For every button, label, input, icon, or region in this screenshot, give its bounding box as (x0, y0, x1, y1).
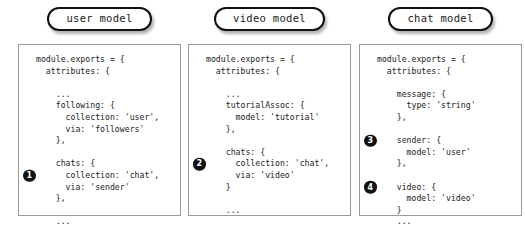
code-line: }, (189, 124, 352, 136)
code-line: via: 'followers' (19, 124, 182, 136)
code-line-text: module.exports = { (36, 54, 125, 64)
code-block: module.exports = { attributes: { message… (360, 54, 523, 228)
code-line-text: }, (377, 112, 407, 122)
code-line (360, 77, 523, 89)
code-line-text: } (377, 205, 402, 215)
code-line (189, 77, 352, 89)
code-line-text: ... (36, 89, 71, 99)
code-line (19, 147, 182, 159)
code-line-text: model: 'video' (377, 193, 476, 203)
callout-badge-3: 3 (364, 135, 377, 148)
code-line: collection: 'user', (19, 112, 182, 124)
code-line-text: ... (36, 216, 71, 226)
model-column: chat modelmodule.exports = { attributes:… (359, 0, 522, 230)
code-line: module.exports = { (189, 54, 352, 66)
model-column: video modelmodule.exports = { attributes… (188, 0, 351, 230)
model-title-pill: chat model (388, 7, 492, 31)
code-line-text: collection: 'chat', (206, 158, 329, 168)
code-line-text: ... (206, 205, 241, 215)
code-line: ... (189, 89, 352, 101)
code-line: tutorialAssoc: { (189, 100, 352, 112)
code-line (189, 193, 352, 205)
code-line-text: collection: 'user', (36, 112, 159, 122)
code-line-text: via: 'video' (206, 170, 295, 180)
code-line-text: video: { (377, 182, 436, 192)
code-line-text: via: 'followers' (36, 124, 144, 134)
model-title-pill-wrapper: chat model (359, 7, 522, 31)
code-line: attributes: { (189, 66, 352, 78)
callout-badge-1: 1 (23, 169, 36, 182)
model-code-panel: module.exports = { attributes: { ... fol… (18, 44, 181, 216)
code-line-text: module.exports = { (377, 54, 466, 64)
code-line: model: 'user' (360, 147, 523, 159)
code-line: following: { (19, 100, 182, 112)
code-line: 2 collection: 'chat', (189, 158, 352, 170)
model-code-panel: module.exports = { attributes: { ... tut… (188, 44, 351, 216)
callout-badge-4: 4 (364, 181, 377, 194)
callout-badge-2: 2 (193, 158, 206, 171)
code-line-text: } (206, 182, 231, 192)
code-line: 4 video: { (360, 182, 523, 194)
code-line: ... (360, 216, 523, 228)
model-title-pill: video model (214, 7, 325, 31)
code-line: }, (19, 135, 182, 147)
code-line-text: model: 'user' (377, 147, 471, 157)
code-line-text: following: { (36, 100, 115, 110)
code-line-text: }, (36, 135, 66, 145)
code-line-text: module.exports = { (206, 54, 295, 64)
code-line-text: }, (206, 124, 236, 134)
code-line: type: 'string' (360, 100, 523, 112)
code-line: } (189, 182, 352, 194)
code-line-text: attributes: { (36, 66, 110, 76)
code-line-text: ... (377, 216, 412, 226)
code-line-text: }, (36, 193, 66, 203)
code-line-text: tutorialAssoc: { (206, 100, 305, 110)
code-line (360, 170, 523, 182)
code-block: module.exports = { attributes: { ... tut… (189, 54, 352, 216)
code-line (189, 135, 352, 147)
code-line: via: 'sender' (19, 182, 182, 194)
model-title-pill-wrapper: user model (18, 7, 181, 31)
code-line-text: via: 'sender' (36, 182, 130, 192)
model-title-pill: user model (47, 7, 151, 31)
code-line-text: attributes: { (206, 66, 280, 76)
code-line: message: { (360, 89, 523, 101)
code-line: }, (19, 193, 182, 205)
code-line: attributes: { (360, 66, 523, 78)
code-line-text: type: 'string' (377, 100, 476, 110)
code-line-text: ... (206, 89, 241, 99)
code-line: }, (360, 112, 523, 124)
code-line-text: chats: { (206, 147, 265, 157)
code-line: 1 collection: 'chat', (19, 170, 182, 182)
code-line: via: 'video' (189, 170, 352, 182)
code-line-text: chats: { (36, 158, 95, 168)
code-line: chats: { (189, 147, 352, 159)
code-line (19, 205, 182, 217)
model-relationship-diagram: user modelmodule.exports = { attributes:… (0, 0, 525, 230)
code-line: module.exports = { (360, 54, 523, 66)
code-line-text: model: 'tutorial' (206, 112, 319, 122)
code-line: ... (189, 205, 352, 217)
code-line: ... (19, 216, 182, 228)
code-line-text: sender: { (377, 135, 441, 145)
code-line-text: message: { (377, 89, 446, 99)
code-line-text: attributes: { (377, 66, 451, 76)
code-block: module.exports = { attributes: { ... fol… (19, 54, 182, 228)
code-line: ... (19, 89, 182, 101)
model-title-pill-wrapper: video model (188, 7, 351, 31)
code-line: chats: { (19, 158, 182, 170)
code-line-text: collection: 'chat', (36, 170, 159, 180)
code-line: } (360, 205, 523, 217)
model-code-panel: module.exports = { attributes: { message… (359, 44, 522, 216)
code-line: module.exports = { (19, 54, 182, 66)
code-line: }, (360, 158, 523, 170)
code-line (19, 77, 182, 89)
code-line-text: }, (377, 158, 407, 168)
code-line: 3 sender: { (360, 135, 523, 147)
code-line: model: 'video' (360, 193, 523, 205)
code-line: model: 'tutorial' (189, 112, 352, 124)
model-column: user modelmodule.exports = { attributes:… (18, 0, 181, 230)
code-line: attributes: { (19, 66, 182, 78)
code-line (360, 124, 523, 136)
